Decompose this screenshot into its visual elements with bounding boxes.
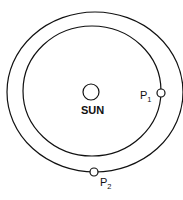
orbit-diagram: SUN P1 P2 bbox=[0, 0, 183, 200]
sun-icon bbox=[83, 84, 99, 100]
orbit-svg: SUN P1 P2 bbox=[0, 0, 183, 200]
p2-label-sub: 2 bbox=[107, 182, 111, 191]
p2-label: P2 bbox=[100, 176, 112, 191]
p1-label: P1 bbox=[140, 89, 152, 104]
p2-label-main: P bbox=[100, 176, 107, 188]
planet-p1-icon bbox=[157, 89, 165, 97]
sun-label: SUN bbox=[81, 104, 104, 116]
p1-label-main: P bbox=[140, 89, 147, 101]
planet-p2-icon bbox=[90, 168, 98, 176]
p1-label-sub: 1 bbox=[147, 95, 151, 104]
